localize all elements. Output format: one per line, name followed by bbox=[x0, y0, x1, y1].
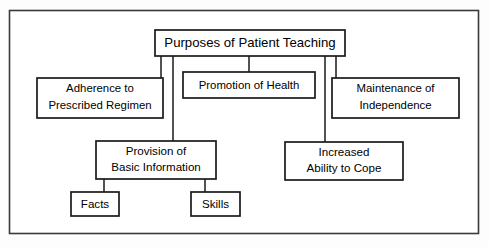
node-facts[interactable]: Facts bbox=[71, 192, 119, 216]
node-label-maintenance-line2: Independence bbox=[359, 99, 431, 111]
node-label-adherence-line1: Adherence to bbox=[66, 82, 134, 94]
node-promotion-of-health[interactable]: Promotion of Health bbox=[183, 72, 315, 98]
node-label-promotion: Promotion of Health bbox=[199, 79, 300, 91]
flowchart-canvas: Purposes of Patient Teaching Adherence t… bbox=[0, 0, 489, 247]
node-provision-of-basic-information[interactable]: Provision of Basic Information bbox=[96, 141, 216, 179]
node-purposes-of-patient-teaching[interactable]: Purposes of Patient Teaching bbox=[155, 30, 345, 56]
node-label-increased-line1: Increased bbox=[319, 145, 370, 158]
node-label-root: Purposes of Patient Teaching bbox=[164, 35, 335, 50]
node-label-maintenance-line1: Maintenance of bbox=[357, 82, 436, 94]
node-label-skills: Skills bbox=[202, 197, 229, 210]
node-label-adherence-line2: Prescribed Regimen bbox=[48, 99, 151, 111]
patient-teaching-diagram: Purposes of Patient Teaching Adherence t… bbox=[0, 0, 489, 247]
node-maintenance-of-independence[interactable]: Maintenance of Independence bbox=[332, 78, 459, 118]
node-label-provision-line1: Provision of bbox=[126, 144, 187, 157]
node-label-facts: Facts bbox=[81, 197, 110, 210]
node-skills[interactable]: Skills bbox=[191, 192, 240, 216]
node-adherence-to-prescribed-regimen[interactable]: Adherence to Prescribed Regimen bbox=[37, 78, 163, 118]
node-label-provision-line2: Basic Information bbox=[111, 160, 201, 173]
node-increased-ability-to-cope[interactable]: Increased Ability to Cope bbox=[285, 142, 403, 180]
node-label-increased-line2: Ability to Cope bbox=[307, 161, 382, 174]
